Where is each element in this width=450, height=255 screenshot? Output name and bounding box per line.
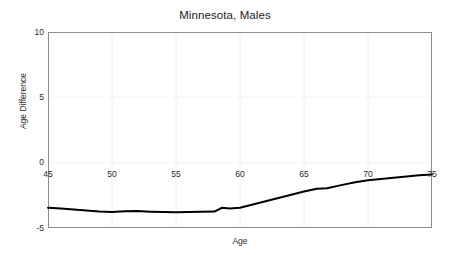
x-tick-label: 45 (43, 170, 52, 179)
x-tick-label: 55 (171, 170, 180, 179)
x-tick-label: 65 (299, 170, 308, 179)
x-axis-tick-labels: 45505560657075 (0, 0, 450, 255)
x-tick-label: 50 (107, 170, 116, 179)
x-tick-label: 70 (363, 170, 372, 179)
x-tick-label: 75 (427, 170, 436, 179)
x-tick-label: 60 (235, 170, 244, 179)
chart-figure: Minnesota, Males Age Difference Age 1050… (0, 0, 450, 255)
